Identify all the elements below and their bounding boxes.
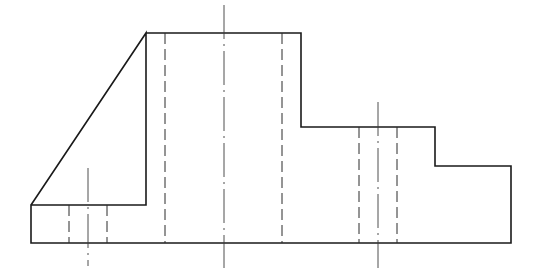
technical-drawing: [0, 0, 540, 276]
center-lines: [88, 5, 378, 268]
hidden-lines: [69, 33, 397, 243]
visible-outline: [31, 33, 511, 243]
part-outline: [31, 33, 511, 243]
